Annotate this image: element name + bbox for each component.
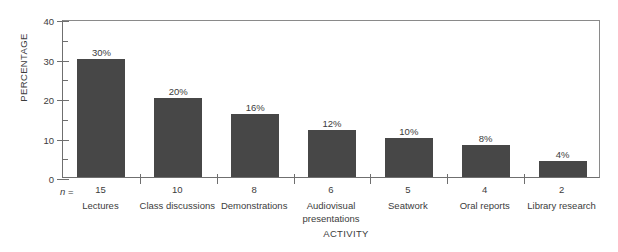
- x-axis-category-label: Library research: [516, 200, 608, 213]
- y-axis-tick-label: 20: [43, 95, 54, 106]
- bar[interactable]: [308, 130, 356, 177]
- y-axis-title: PERCENTAGE: [18, 19, 29, 117]
- y-axis-tick-label: 0: [49, 174, 54, 185]
- y-axis-tick-inner: [63, 21, 69, 22]
- bar[interactable]: [231, 114, 279, 177]
- bar[interactable]: [539, 161, 587, 177]
- bar-value-label: 20%: [169, 86, 188, 97]
- bar-chart-figure: PERCENTAGE 01020304030%20%16%12%10%8%4% …: [0, 0, 618, 252]
- y-axis-tick-inner: [63, 140, 69, 141]
- y-axis-tick-label: 30: [43, 55, 54, 66]
- x-axis-tick: [370, 174, 371, 184]
- bar[interactable]: [385, 138, 433, 178]
- bar[interactable]: [154, 98, 202, 177]
- bar-value-label: 16%: [246, 102, 265, 113]
- y-axis-tick-minor: [63, 80, 68, 81]
- x-axis-tick: [524, 174, 525, 184]
- x-axis-category-group: 2Library research: [516, 184, 608, 213]
- bar-value-label: 4%: [556, 149, 570, 160]
- x-axis-tick: [447, 174, 448, 184]
- plot-area: 01020304030%20%16%12%10%8%4%: [62, 20, 600, 178]
- y-axis-tick-inner: [63, 179, 69, 180]
- y-axis-tick-inner: [63, 61, 69, 62]
- bar[interactable]: [77, 59, 125, 178]
- bar-value-label: 8%: [479, 133, 493, 144]
- y-axis-tick-label: 10: [43, 134, 54, 145]
- y-axis-tick-minor: [63, 159, 68, 160]
- category-n-value: 2: [516, 184, 608, 196]
- bar-value-label: 12%: [322, 118, 341, 129]
- x-axis-tick: [140, 174, 141, 184]
- y-axis-tick-label: 40: [43, 16, 54, 27]
- x-axis-tick: [217, 174, 218, 184]
- bar-value-label: 10%: [399, 126, 418, 137]
- y-axis-tick-minor: [63, 120, 68, 121]
- bar[interactable]: [462, 145, 510, 177]
- y-axis-tick-minor: [63, 41, 68, 42]
- x-axis-tick: [294, 174, 295, 184]
- bar-value-label: 30%: [92, 47, 111, 58]
- x-axis-title: ACTIVITY: [301, 228, 391, 239]
- y-axis-tick-inner: [63, 100, 69, 101]
